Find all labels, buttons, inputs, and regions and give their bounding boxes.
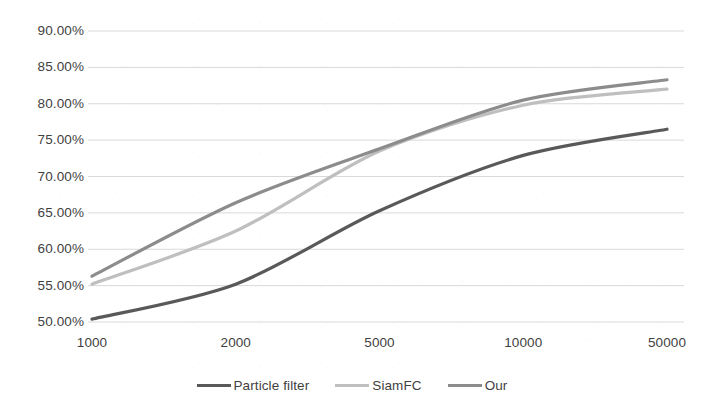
legend-swatch-icon (335, 384, 369, 387)
legend-item[interactable]: Particle filter (197, 379, 310, 393)
legend-label: Our (485, 379, 508, 393)
chart-legend: Particle filterSiamFCOur (0, 379, 704, 393)
legend-item[interactable]: SiamFC (335, 379, 421, 393)
legend-swatch-icon (448, 384, 482, 387)
x-axis-tick-label: 10000 (478, 336, 568, 350)
x-axis-tick-label: 5000 (335, 336, 425, 350)
legend-label: Particle filter (234, 379, 310, 393)
legend-label: SiamFC (372, 379, 421, 393)
legend-swatch-icon (197, 384, 231, 387)
x-axis-tick-label: 2000 (191, 336, 281, 350)
legend-item[interactable]: Our (448, 379, 508, 393)
x-axis-tick-label: 50000 (622, 336, 704, 350)
x-axis: 1000200050001000050000 (0, 0, 704, 408)
line-chart: 90.00%85.00%80.00%75.00%70.00%65.00%60.0… (0, 0, 704, 408)
x-axis-tick-label: 1000 (47, 336, 137, 350)
